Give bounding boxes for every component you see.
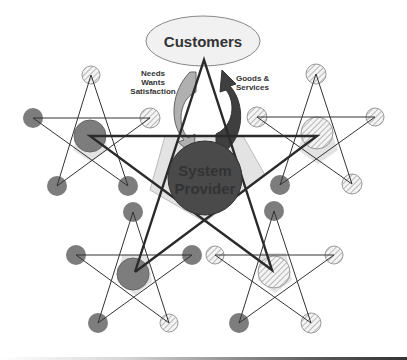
- system-provider-diagram: Customers System Provider Needs Wants Sa…: [0, 0, 407, 360]
- needs-label-line3: Satisfaction: [130, 87, 175, 96]
- node-hub: [117, 258, 149, 290]
- diagram-canvas: Customers System Provider Needs Wants Sa…: [0, 0, 407, 360]
- needs-label-line1: Needs: [141, 69, 166, 78]
- star-bottom-right: [206, 201, 343, 333]
- customers-label: Customers: [164, 33, 242, 50]
- star-top-left: [23, 66, 160, 196]
- goods-label-line2: Services: [236, 83, 269, 92]
- system-provider-label-line1: System: [178, 162, 231, 179]
- node-hub: [258, 256, 290, 288]
- goods-label-line1: Goods &: [236, 74, 270, 83]
- system-provider-label-line2: Provider: [175, 180, 236, 197]
- needs-label-line2: Wants: [141, 78, 165, 87]
- star-bottom-left: [66, 202, 202, 333]
